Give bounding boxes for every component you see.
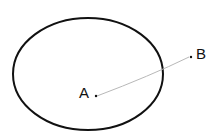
line-a-to-b	[97, 57, 189, 96]
diagram-canvas: A B	[0, 0, 217, 136]
point-b	[190, 56, 192, 58]
point-a	[95, 95, 97, 97]
ellipse-region	[13, 18, 163, 130]
label-b: B	[196, 45, 206, 62]
label-a: A	[79, 84, 89, 101]
